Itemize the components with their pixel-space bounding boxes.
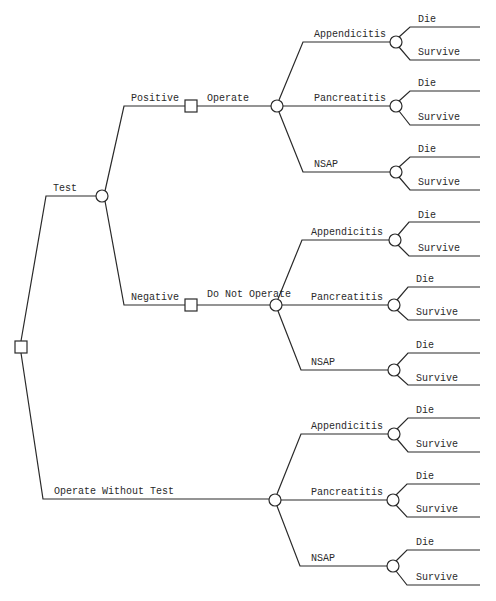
outcome-chance-node-icon — [387, 560, 399, 572]
diagnosis-chance-node-icon — [269, 494, 281, 506]
outcome-chance-node-icon — [388, 364, 400, 376]
outcome-chance-node-icon — [388, 299, 400, 311]
diagnosis-group-negative: Appendicitis Pancreatitis NSAP Die Survi… — [270, 210, 480, 385]
positive-decision-node-icon — [185, 100, 197, 112]
outcome-label: Die — [416, 537, 434, 548]
decision-tree-diagram: Test Operate Without Test Positive Negat… — [0, 0, 496, 601]
outcome-chance-node-icon — [390, 166, 402, 178]
diagnosis-label: Pancreatitis — [311, 292, 383, 303]
operate-without-test-label: Operate Without Test — [54, 486, 174, 497]
outcome-label: Die — [418, 144, 436, 155]
outcome-label: Die — [416, 471, 434, 482]
outcome-label: Survive — [418, 47, 460, 58]
outcome-chance-node-icon — [390, 36, 402, 48]
diagnosis-label: Appendicitis — [314, 29, 386, 40]
diagnosis-chance-node-icon — [271, 100, 283, 112]
outcome-label: Survive — [418, 177, 460, 188]
outcome-label: Survive — [418, 243, 460, 254]
outcome-label: Survive — [416, 307, 458, 318]
outcome-label: Die — [416, 405, 434, 416]
diagnosis-chance-node-icon — [270, 299, 282, 311]
outcome-label: Survive — [418, 112, 460, 123]
root-decision-node-icon — [15, 341, 27, 353]
negative-label: Negative — [131, 292, 179, 303]
outcome-label: Die — [416, 274, 434, 285]
test-chance-node-icon — [96, 190, 108, 202]
diagnosis-label: Appendicitis — [311, 421, 383, 432]
diagnosis-group-positive: Appendicitis Pancreatitis NSAP Die Survi… — [271, 14, 480, 190]
outcome-label: Die — [418, 210, 436, 221]
outcome-chance-node-icon — [390, 100, 402, 112]
positive-label: Positive — [131, 93, 179, 104]
outcome-label: Survive — [416, 439, 458, 450]
diagnosis-label: NSAP — [311, 553, 335, 564]
test-label: Test — [53, 183, 77, 194]
outcome-label: Survive — [416, 373, 458, 384]
outcome-label: Die — [418, 78, 436, 89]
outcome-chance-node-icon — [389, 234, 401, 246]
diagnosis-label: Appendicitis — [311, 227, 383, 238]
root-branches — [21, 196, 269, 499]
diagnosis-label: Pancreatitis — [314, 93, 386, 104]
diagnosis-label: NSAP — [311, 357, 335, 368]
outcome-chance-node-icon — [387, 494, 399, 506]
diagnosis-label: NSAP — [314, 159, 338, 170]
outcome-label: Survive — [416, 504, 458, 515]
outcome-chance-node-icon — [388, 428, 400, 440]
diagnosis-label: Pancreatitis — [311, 487, 383, 498]
outcome-label: Die — [418, 14, 436, 25]
outcome-label: Survive — [416, 572, 458, 583]
diagnosis-group-no-test: Appendicitis Pancreatitis NSAP Die Survi… — [269, 405, 480, 585]
outcome-label: Die — [416, 340, 434, 351]
operate-label: Operate — [207, 93, 249, 104]
negative-decision-node-icon — [185, 299, 197, 311]
